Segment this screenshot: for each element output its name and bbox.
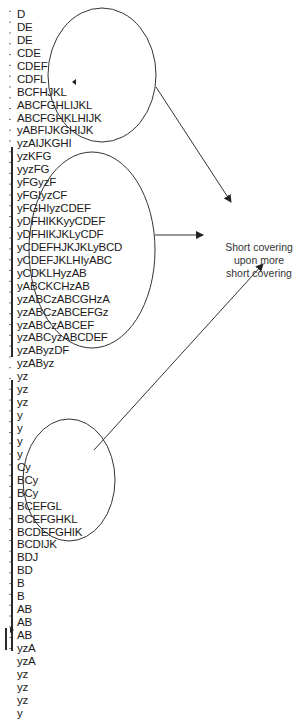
small-marker-arrow (72, 79, 76, 85)
tpo-row: yz (17, 681, 122, 694)
arrow-lower (94, 264, 263, 450)
tpo-row: yzA (17, 655, 122, 668)
tpo-row: y (17, 707, 122, 720)
short-covering-annotation: Short covering upon more short covering (220, 241, 298, 280)
annotation-line-1: Short covering (220, 241, 298, 254)
tpo-row: yz (17, 668, 122, 681)
lower-cluster-ellipse (23, 419, 115, 541)
arrow-upper (156, 87, 231, 202)
middle-cluster-ellipse (29, 152, 155, 348)
tpo-row: yz (17, 694, 122, 707)
bottom-marker-arrow (10, 627, 14, 633)
upper-cluster-ellipse (48, 8, 156, 142)
annotation-line-2: upon more (220, 254, 298, 267)
annotation-line-3: short covering (220, 267, 298, 280)
